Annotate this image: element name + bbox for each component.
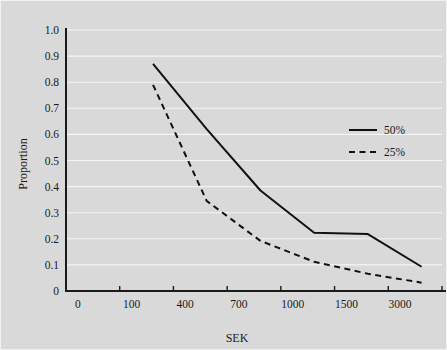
x-tick-labels: 0100400700100015003000	[75, 298, 412, 310]
y-tick-label: 0.7	[45, 102, 60, 114]
x-tick-label: 3000	[389, 298, 412, 310]
y-tick-label: 0	[53, 285, 59, 297]
x-tick-label: 0	[75, 298, 81, 310]
y-tick-labels: 00.10.20.30.40.50.60.70.80.91.0	[45, 24, 60, 297]
y-tick-label: 0.9	[45, 50, 60, 62]
y-tick-label: 0.2	[45, 233, 60, 245]
y-tick-label: 0.4	[45, 181, 60, 193]
legend-label-50pct: 50%	[384, 124, 406, 136]
chart-figure: 00.10.20.30.40.50.60.70.80.91.0 01004007…	[0, 0, 447, 350]
y-tick-label: 0.3	[45, 207, 60, 219]
x-tick-label: 400	[177, 298, 195, 310]
y-tick-label: 0.5	[45, 155, 60, 167]
series-line-25pct	[153, 85, 422, 283]
data-series	[153, 64, 422, 283]
y-tick-label: 0.1	[45, 259, 60, 271]
x-axis-title: SEK	[226, 331, 249, 345]
series-line-50pct	[153, 64, 422, 267]
x-tick-label: 1000	[281, 298, 304, 310]
legend-label-25pct: 25%	[384, 146, 406, 158]
y-tick-label: 0.8	[45, 76, 60, 88]
x-tick-label: 1500	[335, 298, 358, 310]
y-tick-label: 0.6	[45, 128, 60, 140]
legend: 50%25%	[349, 124, 406, 158]
line-chart: 00.10.20.30.40.50.60.70.80.91.0 01004007…	[1, 1, 447, 350]
x-tick-label: 700	[230, 298, 248, 310]
y-axis-title: Proportion	[16, 138, 30, 189]
x-tick-label: 100	[123, 298, 141, 310]
y-tick-label: 1.0	[45, 24, 60, 36]
